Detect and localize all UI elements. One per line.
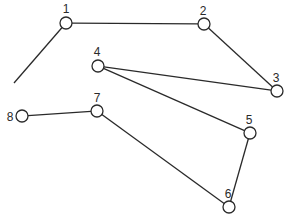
node-2 [198, 18, 210, 30]
node-8 [16, 110, 28, 122]
node-4 [92, 60, 104, 72]
edge-1-2 [72, 23, 198, 24]
nodes-group: 12345678 [7, 2, 283, 213]
edges-group [14, 23, 273, 203]
node-7 [91, 105, 103, 117]
edge-3-4 [104, 67, 271, 90]
edge-4-5 [103, 68, 244, 130]
edge-5-6 [231, 139, 249, 201]
node-3 [271, 85, 283, 97]
edge-7-8 [28, 111, 91, 115]
node-path-diagram: 12345678 [0, 0, 288, 219]
edge-2-3 [208, 28, 272, 87]
node-label-8: 8 [7, 110, 14, 124]
node-label-1: 1 [63, 2, 70, 16]
node-1 [60, 17, 72, 29]
node-label-2: 2 [200, 4, 207, 18]
node-6 [223, 201, 235, 213]
edge-1-open [14, 28, 62, 83]
node-label-6: 6 [225, 187, 232, 201]
node-label-3: 3 [273, 71, 280, 85]
node-label-4: 4 [94, 45, 101, 59]
node-5 [244, 127, 256, 139]
node-label-7: 7 [94, 91, 101, 105]
node-label-5: 5 [246, 113, 253, 127]
edge-6-7 [102, 115, 224, 204]
